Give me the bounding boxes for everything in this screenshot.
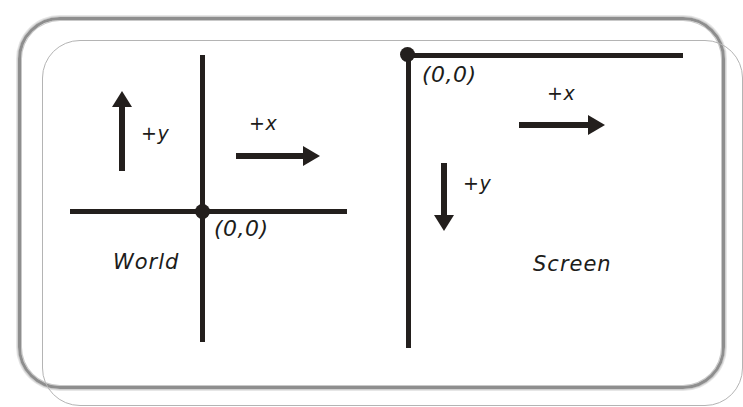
world-vertical-axis (200, 55, 205, 342)
world-plus-y-arrow (111, 91, 133, 171)
screen-origin-dot (400, 47, 415, 62)
screen-plus-x-label: +x (547, 82, 575, 104)
figure-border-frame (18, 17, 725, 389)
screen-origin-label: (0,0) (422, 62, 477, 87)
coordinate-systems-figure: (0,0) +y +x World (0,0) +x (0, 0, 743, 407)
world-origin-dot (195, 204, 210, 219)
screen-plus-x-arrow (519, 114, 605, 136)
world-plus-x-label: +x (249, 112, 277, 134)
world-system-label: World (113, 250, 179, 274)
screen-system-label: Screen (533, 252, 612, 276)
screen-plus-y-label: +y (463, 172, 491, 194)
world-plus-y-label: +y (141, 122, 169, 144)
screen-vertical-axis (406, 55, 411, 348)
screen-horizontal-axis (406, 53, 683, 58)
world-plus-x-arrow (236, 145, 320, 167)
figure-border-inner-line (42, 40, 743, 406)
screen-plus-y-arrow (433, 163, 455, 231)
world-origin-label: (0,0) (214, 216, 269, 241)
